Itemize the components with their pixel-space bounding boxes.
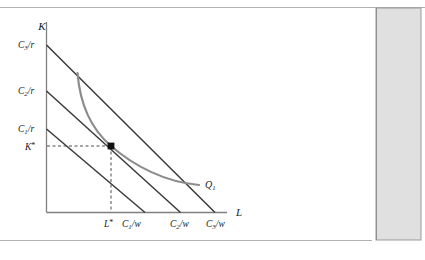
svg-text:C3/w: C3/w [206, 219, 225, 230]
isoquant-isocost-chart: K L C3/r C2/r C1/r K* L* [0, 0, 425, 260]
x-tick-label-c1w: C1/w [122, 219, 141, 230]
svg-text:C1/w: C1/w [122, 219, 141, 230]
side-panel [376, 8, 421, 240]
y-tick-c3-denominator: /r [27, 40, 35, 50]
x-tick-c3-denominator: /w [215, 219, 226, 229]
page-background [0, 0, 425, 260]
q-label-subscript: 1 [212, 184, 215, 191]
x-tick-label-c3w: C3/w [206, 219, 225, 230]
figure-container: K L C3/r C2/r C1/r K* L* [0, 0, 425, 260]
svg-text:C2/w: C2/w [170, 219, 189, 230]
x-axis-label: L [235, 206, 242, 218]
x-tick-label-c2w: C2/w [170, 219, 189, 230]
y-tick-c1-denominator: /r [27, 124, 35, 134]
x-tick-c1-denominator: /w [131, 219, 142, 229]
x-tick-c2-denominator: /w [179, 219, 190, 229]
y-axis-label: K [37, 20, 46, 32]
l-star-asterisk: * [109, 218, 113, 227]
k-star-asterisk: * [31, 141, 35, 150]
y-tick-c2-denominator: /r [27, 86, 35, 96]
tangency-point-marker [108, 143, 115, 150]
